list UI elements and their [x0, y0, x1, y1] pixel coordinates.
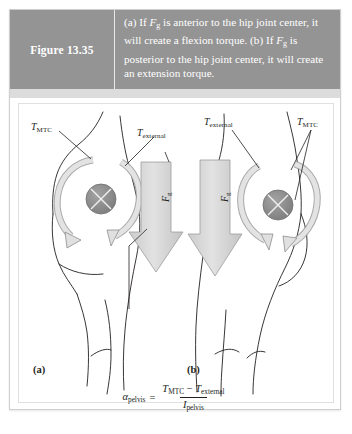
header-divider-band	[10, 89, 340, 98]
equation-num-term1-subscript: MTC	[168, 387, 184, 396]
illustration-panel: TMTC Texternal Fg Texternal TMTC Fg (a) …	[18, 103, 334, 403]
panel-a-mtc-torque-label: TMTC	[31, 121, 52, 134]
panel-b-external-leader-line	[232, 130, 259, 168]
figure-caption-text: (a) If Fg is anterior to the hip joint c…	[115, 10, 340, 89]
figure-number-label: Figure 13.35	[10, 10, 115, 89]
panel-a-force-symbol: F	[160, 196, 171, 202]
panel-a-hip-joint-center-icon	[86, 184, 116, 214]
panel-a-letter: (a)	[33, 364, 45, 375]
equation-fraction: TMTC − Texternal Ipelvis	[159, 383, 227, 412]
panel-b-external-torque-label: Texternal	[204, 116, 233, 129]
equation-denominator: Ipelvis	[180, 397, 207, 412]
panel-b-mtc-subscript: MTC	[303, 121, 318, 129]
panel-b-gravity-force-label: Fg	[219, 192, 232, 202]
panel-a-gravity-force-label: Fg	[160, 192, 173, 202]
pelvis-angular-acceleration-equation: αpelvis = TMTC − Texternal Ipelvis	[10, 383, 340, 412]
caption-line-3: posterior to the hip joint center, it wi…	[124, 53, 294, 65]
panel-a-force-subscript: g	[165, 192, 173, 196]
panel-a-body-outline	[52, 112, 140, 394]
panel-a-force-tail-tick	[165, 152, 169, 162]
panel-a-external-torque-label: Texternal	[137, 127, 166, 140]
panel-b-force-symbol: F	[219, 196, 230, 202]
figure-number-text: Figure 13.35	[30, 44, 94, 56]
equation-minus: −	[187, 383, 193, 394]
panel-b-hip-joint-center-icon	[263, 190, 293, 220]
anatomy-diagram	[19, 104, 333, 402]
panel-b-gravity-force-arrow	[188, 160, 242, 276]
equation-lhs: αpelvis	[122, 391, 145, 404]
figure-card: Figure 13.35 (a) If Fg is anterior to th…	[9, 9, 341, 410]
equation-numerator: TMTC − Texternal	[159, 383, 227, 397]
panel-a-external-subscript: external	[143, 132, 166, 140]
caption-line-1: (a) If Fg is anterior to the hip joint c…	[124, 16, 309, 28]
equation-lhs-subscript: pelvis	[128, 395, 145, 404]
panel-b-external-subscript: external	[210, 121, 233, 129]
panel-a-mtc-leader-line	[59, 131, 91, 159]
panel-b-force-subscript: g	[224, 192, 232, 196]
equation-row: αpelvis = TMTC − Texternal Ipelvis	[122, 383, 227, 412]
equation-equals: =	[149, 392, 155, 403]
panel-b-mtc-torque-label: TMTC	[297, 116, 318, 129]
figure-caption-bar: Figure 13.35 (a) If Fg is anterior to th…	[10, 10, 340, 89]
equation-den-subscript: pelvis	[186, 403, 203, 412]
panel-a-mtc-subscript: MTC	[37, 126, 52, 134]
panel-b-letter: (b)	[187, 364, 200, 375]
equation-num-term2-subscript: external	[201, 387, 225, 396]
